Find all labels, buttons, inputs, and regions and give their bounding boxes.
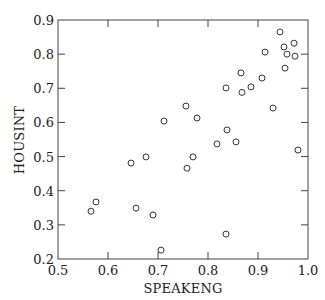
data-point-marker	[183, 103, 189, 109]
scatter-chart: 0.50.60.70.80.91.0 0.20.30.40.50.60.70.8…	[0, 0, 325, 300]
data-point-marker	[282, 65, 288, 71]
data-point-marker	[143, 154, 149, 160]
data-point-marker	[292, 53, 298, 59]
data-point-marker	[295, 147, 301, 153]
data-point-marker	[158, 247, 164, 253]
y-tick-labels: 0.20.30.40.50.60.70.80.9	[33, 13, 54, 267]
data-point-marker	[277, 29, 283, 35]
data-point-marker	[284, 51, 290, 57]
y-tick-label: 0.6	[33, 115, 54, 130]
data-point-marker	[224, 127, 230, 133]
data-point-marker	[128, 160, 134, 166]
y-tick-label: 0.9	[33, 13, 54, 28]
x-tick-label: 1.0	[298, 263, 319, 278]
y-tick-label: 0.4	[33, 184, 54, 199]
y-tick-label: 0.3	[33, 218, 54, 233]
data-points	[88, 29, 301, 253]
data-point-marker	[259, 75, 265, 81]
data-point-marker	[291, 40, 297, 46]
axis-ticks	[58, 20, 308, 259]
data-point-marker	[239, 89, 245, 95]
y-tick-label: 0.5	[33, 150, 54, 165]
data-point-marker	[190, 154, 196, 160]
data-point-marker	[223, 85, 229, 91]
y-tick-label: 0.8	[33, 47, 54, 62]
data-point-marker	[194, 115, 200, 121]
data-point-marker	[262, 49, 268, 55]
data-point-marker	[133, 205, 139, 211]
data-point-marker	[184, 165, 190, 171]
x-tick-label: 0.9	[248, 263, 269, 278]
y-tick-label: 0.7	[33, 81, 54, 96]
data-point-marker	[233, 139, 239, 145]
y-tick-label: 0.2	[33, 252, 54, 267]
plot-frame	[58, 20, 308, 259]
x-tick-label: 0.6	[98, 263, 119, 278]
data-point-marker	[161, 118, 167, 124]
x-tick-labels: 0.50.60.70.80.91.0	[48, 263, 319, 278]
x-tick-label: 0.7	[148, 263, 169, 278]
data-point-marker	[223, 231, 229, 237]
x-axis-title: SPEAKENG	[143, 281, 222, 296]
data-point-marker	[93, 199, 99, 205]
data-point-marker	[238, 70, 244, 76]
x-tick-label: 0.8	[198, 263, 219, 278]
data-point-marker	[248, 84, 254, 90]
data-point-marker	[214, 141, 220, 147]
data-point-marker	[281, 44, 287, 50]
data-point-marker	[150, 212, 156, 218]
data-point-marker	[88, 208, 94, 214]
y-axis-title: HOUSINT	[12, 106, 27, 175]
data-point-marker	[270, 105, 276, 111]
